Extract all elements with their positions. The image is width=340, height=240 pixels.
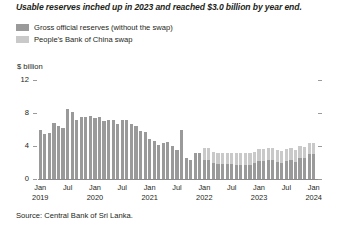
bar-segment-gross-official-reserves xyxy=(89,116,92,179)
bar-column xyxy=(148,139,151,179)
bar-segment-gross-official-reserves xyxy=(125,120,128,179)
bar-segment-gross-official-reserves xyxy=(312,154,315,179)
x-axis-tick-year: 2021 xyxy=(135,193,165,203)
bar-segment-gross-official-reserves xyxy=(166,142,169,179)
x-axis-tick-label: Jul xyxy=(162,183,192,193)
bar-column xyxy=(80,117,83,179)
x-axis-tick-month: Jan xyxy=(80,183,110,193)
bar-segment-gross-official-reserves xyxy=(185,158,188,179)
x-axis-tick-label: Jul xyxy=(217,183,247,193)
bar-column xyxy=(244,153,247,179)
x-axis-tick-year: 2022 xyxy=(189,193,219,203)
source-note: Source: Central Bank of Sri Lanka. xyxy=(16,211,133,220)
bar-segment-gross-official-reserves xyxy=(121,120,124,179)
bar-segment-gross-official-reserves xyxy=(134,126,137,179)
bar-column xyxy=(280,151,283,179)
bar-segment-gross-official-reserves xyxy=(66,109,69,179)
bar-column xyxy=(66,109,69,179)
bar-column xyxy=(144,132,147,179)
x-axis-tick-month: Jul xyxy=(107,183,137,193)
bar-segment-gross-official-reserves xyxy=(43,134,46,179)
x-axis-tick-year: 2019 xyxy=(25,193,55,203)
bar-segment-gross-official-reserves xyxy=(235,165,238,179)
bar-segment-pboc-swap xyxy=(271,148,274,160)
x-axis-tick-month: Jan xyxy=(25,183,55,193)
bar-segment-gross-official-reserves xyxy=(276,162,279,179)
bar-segment-gross-official-reserves xyxy=(253,163,256,179)
bar-column xyxy=(134,126,137,179)
bar-segment-gross-official-reserves xyxy=(226,164,229,179)
bar-segment-gross-official-reserves xyxy=(303,158,306,179)
bar-column xyxy=(130,124,133,179)
bar-segment-gross-official-reserves xyxy=(144,132,147,179)
bar-segment-pboc-swap xyxy=(285,149,288,161)
legend-swatch-gross-official-reserves xyxy=(16,24,29,31)
x-axis-tick-label: Jan2019 xyxy=(25,183,55,203)
bar-segment-gross-official-reserves xyxy=(239,165,242,179)
bar-column xyxy=(216,153,219,179)
x-axis-tick-label: Jul xyxy=(107,183,137,193)
bar-segment-pboc-swap xyxy=(312,143,315,155)
y-axis-tick xyxy=(33,113,37,114)
bar-segment-gross-official-reserves xyxy=(230,164,233,179)
bar-column xyxy=(52,123,55,179)
y-axis-tick xyxy=(33,146,37,147)
bar-segment-gross-official-reserves xyxy=(189,160,192,179)
bar-column xyxy=(75,120,78,179)
x-axis-tick-year: 2024 xyxy=(299,193,329,203)
bar-segment-gross-official-reserves xyxy=(116,124,119,179)
bar-column xyxy=(71,112,74,179)
bar-column xyxy=(226,153,229,179)
x-axis-tick-label: Jan2023 xyxy=(244,183,274,203)
bar-segment-pboc-swap xyxy=(230,153,233,165)
bar-column xyxy=(230,153,233,179)
bar-segment-pboc-swap xyxy=(298,146,301,158)
bar-segment-pboc-swap xyxy=(294,150,297,162)
bar-column xyxy=(48,133,51,179)
x-axis-tick-month: Jan xyxy=(299,183,329,193)
bar-column xyxy=(271,148,274,179)
bar-column xyxy=(43,134,46,179)
y-axis-tick-label: 0 xyxy=(13,174,29,183)
bar-segment-gross-official-reserves xyxy=(289,160,292,179)
y-axis-tick xyxy=(33,80,37,81)
bar-segment-pboc-swap xyxy=(280,151,283,163)
bar-column xyxy=(212,152,215,179)
bar-segment-pboc-swap xyxy=(226,153,229,165)
bar-segment-pboc-swap xyxy=(267,148,270,160)
plot-area xyxy=(38,80,316,179)
bar-segment-pboc-swap xyxy=(303,147,306,159)
bar-segment-pboc-swap xyxy=(216,153,219,165)
bar-segment-gross-official-reserves xyxy=(162,143,165,179)
bar-segment-gross-official-reserves xyxy=(112,120,115,179)
y-axis-tick xyxy=(33,179,37,180)
bar-column xyxy=(89,116,92,179)
bar-column xyxy=(303,147,306,179)
bar-column xyxy=(189,160,192,179)
bar-column xyxy=(121,120,124,179)
y-axis-tick-right xyxy=(318,113,322,114)
bar-segment-gross-official-reserves xyxy=(84,117,87,179)
bar-segment-gross-official-reserves xyxy=(207,160,210,179)
bar-segment-gross-official-reserves xyxy=(198,153,201,179)
bar-column xyxy=(112,120,115,179)
bar-segment-gross-official-reserves xyxy=(221,164,224,179)
bar-segment-gross-official-reserves xyxy=(285,161,288,179)
bar-column xyxy=(239,153,242,179)
bar-segment-gross-official-reserves xyxy=(180,130,183,180)
legend-item-pboc-swap: People's Bank of China swap xyxy=(16,34,173,45)
x-axis-tick-month: Jan xyxy=(244,183,274,193)
bar-segment-gross-official-reserves xyxy=(148,139,151,179)
bar-segment-gross-official-reserves xyxy=(212,163,215,179)
x-axis-tick-year: 2023 xyxy=(244,193,274,203)
bar-column xyxy=(157,145,160,179)
bar-segment-gross-official-reserves xyxy=(294,162,297,179)
bar-column xyxy=(221,153,224,179)
bar-column xyxy=(207,148,210,179)
x-axis-tick-month: Jan xyxy=(135,183,165,193)
bar-column xyxy=(289,148,292,179)
bar-segment-gross-official-reserves xyxy=(203,160,206,179)
bar-column xyxy=(198,153,201,179)
x-axis-baseline xyxy=(38,179,318,180)
x-axis-tick-label: Jan2021 xyxy=(135,183,165,203)
